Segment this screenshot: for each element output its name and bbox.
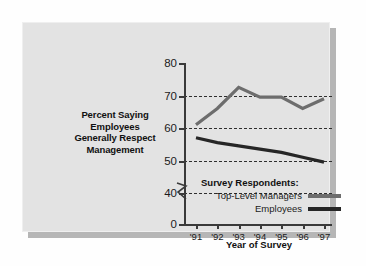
series-line-employees — [196, 138, 324, 162]
y-axis-title-line-2: Employees — [55, 121, 175, 133]
y-tick-label-50: 50 — [164, 155, 177, 167]
legend-label-employees: Employees — [255, 203, 302, 214]
y-axis-title-line-4: Management — [55, 144, 175, 156]
series-line-top-level-managers — [196, 87, 324, 124]
y-axis-title: Percent Saying Employees Generally Respe… — [55, 109, 175, 155]
y-tick-label-70: 70 — [164, 90, 177, 102]
legend-item-top-level-managers: Top-Level Managers — [201, 189, 341, 202]
y-tick-label-0: 0 — [171, 218, 177, 230]
chart-card: Percent Saying Employees Generally Respe… — [22, 22, 330, 232]
legend: Survey Respondents: Top-Level Managers E… — [201, 177, 341, 215]
plot-area: 04050607080 '91'92'93'94'95'96'97 Survey… — [184, 63, 330, 226]
chart-figure: Percent Saying Employees Generally Respe… — [0, 0, 366, 266]
legend-title: Survey Respondents: — [201, 177, 341, 188]
y-axis-title-line-1: Percent Saying — [55, 109, 175, 121]
y-axis-title-line-3: Generally Respect — [55, 132, 175, 144]
legend-swatch-employees — [308, 207, 341, 211]
y-tick-label-80: 80 — [164, 57, 177, 69]
x-axis-title: Year of Survey — [184, 239, 334, 250]
legend-label-top-level-managers: Top-Level Managers — [216, 190, 302, 201]
legend-item-employees: Employees — [201, 202, 341, 215]
y-tick-label-40: 40 — [164, 187, 177, 199]
y-tick-label-60: 60 — [164, 122, 177, 134]
legend-swatch-top-level-managers — [308, 194, 341, 198]
